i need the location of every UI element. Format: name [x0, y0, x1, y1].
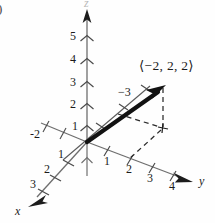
- coordinate-system-figure: ): [0, 0, 215, 223]
- x-axis-label: x: [15, 205, 20, 217]
- z-tick-label-4: 4: [70, 53, 76, 65]
- minus-three-label: −3: [118, 86, 131, 98]
- z-tick-label-3: 3: [70, 76, 76, 88]
- y-axis-label: y: [199, 175, 204, 187]
- y-tick-label-3: 3: [147, 172, 153, 184]
- x-tick-label-3: 3: [30, 178, 36, 190]
- z-axis-label: z: [84, 0, 89, 9]
- y-tick-label-4: 4: [169, 180, 175, 192]
- x-tick-label-2: 2: [44, 163, 50, 175]
- z-tick-label-1: 1: [72, 120, 78, 132]
- negative-two-label: -2: [30, 128, 40, 140]
- z-tick-label-5: 5: [70, 30, 76, 42]
- vector-shaft: [87, 92, 158, 142]
- y-tick-label-2: 2: [126, 163, 132, 175]
- y-tick-label-1: 1: [104, 155, 110, 167]
- z-axis-group: [81, 9, 94, 176]
- vector-coordinate-label: ⟨−2, 2, 2⟩: [139, 59, 194, 73]
- dashed-to-y-axis: [128, 130, 161, 160]
- negative-axis-group: [41, 121, 87, 142]
- y-axis-group: [87, 142, 193, 183]
- y-axis-arrowhead: [173, 173, 193, 183]
- y-axis-line: [87, 142, 182, 178]
- x-tick-label-1: 1: [58, 148, 64, 160]
- z-tick-label-2: 2: [70, 98, 76, 110]
- x-tick-1: [63, 160, 74, 166]
